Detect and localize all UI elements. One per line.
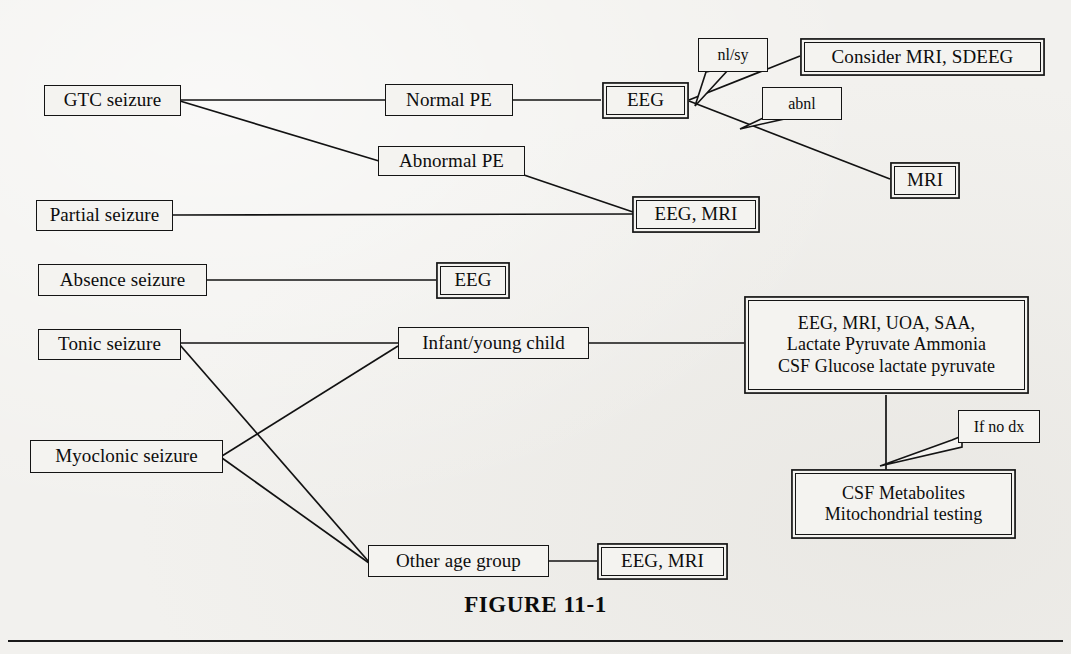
node-mri[interactable]: MRI (894, 166, 956, 195)
node-eeg-mri-partial[interactable]: EEG, MRI (636, 200, 756, 229)
node-gtc-seizure[interactable]: GTC seizure (44, 85, 181, 116)
node-absence-seizure[interactable]: Absence seizure (38, 264, 207, 296)
node-csf-metabolites-line1: CSF Metabolites (802, 483, 1005, 504)
node-csf-metabolites-line2: Mitochondrial testing (802, 504, 1005, 525)
callout-nl-sy-label: nl/sy (717, 46, 748, 64)
callout-nl-sy: nl/sy (698, 38, 768, 72)
callout-if-no-dx: If no dx (958, 410, 1040, 443)
node-eeg-top-label: EEG (607, 89, 684, 111)
node-metabolic-workup-line2: Lactate Pyruvate Ammonia (755, 334, 1018, 355)
edge-abnormal-pe-to-eeg-mri (524, 175, 633, 212)
if-no-dx-callout-tail (880, 436, 962, 468)
node-metabolic-workup-line3: CSF Glucose lactate pyruvate (755, 356, 1018, 377)
node-normal-pe[interactable]: Normal PE (385, 84, 513, 116)
nl-sy-callout-tail (688, 70, 728, 108)
node-tonic-seizure-label: Tonic seizure (39, 333, 180, 355)
node-eeg-mri-other-label: EEG, MRI (602, 550, 723, 572)
node-metabolic-workup[interactable]: EEG, MRI, UOA, SAA, Lactate Pyruvate Amm… (748, 300, 1025, 390)
node-other-age-group-label: Other age group (369, 550, 548, 572)
figure-canvas: nl/sy abnl If no dx GTC seizure Partial … (0, 0, 1071, 654)
node-myoclonic-seizure[interactable]: Myoclonic seizure (30, 440, 223, 473)
node-metabolic-workup-line1: EEG, MRI, UOA, SAA, (755, 313, 1018, 334)
callout-if-no-dx-label: If no dx (974, 418, 1025, 436)
node-mri-label: MRI (895, 169, 955, 191)
node-eeg-mri-partial-label: EEG, MRI (637, 203, 755, 225)
node-partial-seizure-label: Partial seizure (37, 204, 172, 226)
edge-partial-to-eeg-mri (172, 214, 633, 215)
node-other-age-group[interactable]: Other age group (368, 545, 549, 577)
node-infant-young-child-label: Infant/young child (399, 332, 588, 354)
edge-myoclonic-to-other-age (222, 458, 369, 563)
callout-abnl-label: abnl (788, 95, 816, 113)
node-normal-pe-label: Normal PE (386, 89, 512, 111)
node-absence-seizure-label: Absence seizure (39, 269, 206, 291)
node-myoclonic-seizure-label: Myoclonic seizure (31, 445, 222, 467)
node-tonic-seizure[interactable]: Tonic seizure (38, 329, 181, 360)
node-metabolic-workup-label: EEG, MRI, UOA, SAA, Lactate Pyruvate Amm… (749, 313, 1024, 377)
callout-abnl: abnl (762, 87, 842, 120)
node-partial-seizure[interactable]: Partial seizure (36, 200, 173, 231)
node-gtc-seizure-label: GTC seizure (45, 89, 180, 111)
node-abnormal-pe[interactable]: Abnormal PE (378, 146, 525, 176)
node-abnormal-pe-label: Abnormal PE (379, 150, 524, 172)
node-infant-young-child[interactable]: Infant/young child (398, 327, 589, 359)
node-eeg-absence[interactable]: EEG (440, 266, 506, 295)
edge-gtc-to-abnormal-pe (180, 101, 379, 161)
footer-rule (8, 640, 1063, 642)
node-eeg-top[interactable]: EEG (606, 86, 685, 115)
node-consider-mri-sdeeg[interactable]: Consider MRI, SDEEG (804, 42, 1041, 72)
node-eeg-mri-other[interactable]: EEG, MRI (601, 547, 724, 576)
node-eeg-absence-label: EEG (441, 269, 505, 291)
figure-caption: FIGURE 11-1 (0, 592, 1071, 618)
edge-myoclonic-to-infant (222, 346, 398, 456)
node-consider-mri-sdeeg-label: Consider MRI, SDEEG (805, 46, 1040, 68)
node-csf-metabolites-label: CSF Metabolites Mitochondrial testing (796, 483, 1011, 525)
node-csf-metabolites[interactable]: CSF Metabolites Mitochondrial testing (795, 473, 1012, 535)
